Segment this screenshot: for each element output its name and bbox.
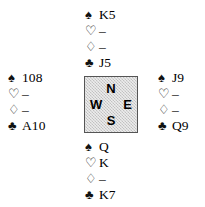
west-spade-holding: 108 xyxy=(22,70,43,86)
north-club-holding: J5 xyxy=(99,55,111,71)
diamond-icon: ♢ xyxy=(85,39,99,55)
hand-row-clubs: ♣ K7 xyxy=(85,187,116,203)
south-club-holding: K7 xyxy=(99,187,116,203)
compass-east-label: E xyxy=(123,98,132,111)
east-diamond-holding: – xyxy=(172,102,179,118)
hand-north: ♠ K5 ♡ – ♢ – ♣ J5 xyxy=(85,7,116,71)
hand-row-hearts: ♡ – xyxy=(85,23,116,39)
hand-row-hearts: ♡ – xyxy=(158,86,189,102)
hand-row-diamonds: ♢ – xyxy=(85,39,116,55)
south-diamond-holding: – xyxy=(99,171,106,187)
compass-west-label: W xyxy=(90,98,102,111)
hand-row-spades: ♠ K5 xyxy=(85,7,116,23)
diamond-icon: ♢ xyxy=(8,102,22,118)
hand-row-clubs: ♣ J5 xyxy=(85,55,116,71)
south-heart-holding: K xyxy=(99,155,109,171)
north-heart-holding: – xyxy=(99,23,106,39)
hand-west: ♠ 108 ♡ – ♢ – ♣ A10 xyxy=(8,70,46,134)
compass-box: N W E S xyxy=(84,76,138,133)
club-icon: ♣ xyxy=(85,55,99,71)
west-diamond-holding: – xyxy=(22,102,29,118)
heart-icon: ♡ xyxy=(8,86,22,102)
east-club-holding: Q9 xyxy=(172,118,189,134)
hand-row-hearts: ♡ – xyxy=(8,86,46,102)
hand-row-clubs: ♣ Q9 xyxy=(158,118,189,134)
west-heart-holding: – xyxy=(22,86,29,102)
hand-row-spades: ♠ 108 xyxy=(8,70,46,86)
heart-icon: ♡ xyxy=(158,86,172,102)
bridge-hand-diagram: ♠ K5 ♡ – ♢ – ♣ J5 ♠ 108 ♡ – ♢ – ♣ xyxy=(0,0,205,207)
hand-row-diamonds: ♢ – xyxy=(85,171,116,187)
club-icon: ♣ xyxy=(85,187,99,203)
hand-row-hearts: ♡ K xyxy=(85,155,116,171)
spade-icon: ♠ xyxy=(85,139,99,155)
hand-row-diamonds: ♢ – xyxy=(8,102,46,118)
east-heart-holding: – xyxy=(172,86,179,102)
south-spade-holding: Q xyxy=(99,139,109,155)
diamond-icon: ♢ xyxy=(85,171,99,187)
north-diamond-holding: – xyxy=(99,39,106,55)
diamond-icon: ♢ xyxy=(158,102,172,118)
spade-icon: ♠ xyxy=(158,70,172,86)
hand-row-spades: ♠ J9 xyxy=(158,70,189,86)
hand-row-spades: ♠ Q xyxy=(85,139,116,155)
club-icon: ♣ xyxy=(8,118,22,134)
spade-icon: ♠ xyxy=(8,70,22,86)
hand-row-diamonds: ♢ – xyxy=(158,102,189,118)
spade-icon: ♠ xyxy=(85,7,99,23)
hand-east: ♠ J9 ♡ – ♢ – ♣ Q9 xyxy=(158,70,189,134)
hand-row-clubs: ♣ A10 xyxy=(8,118,46,134)
club-icon: ♣ xyxy=(158,118,172,134)
north-spade-holding: K5 xyxy=(99,7,116,23)
east-spade-holding: J9 xyxy=(172,70,184,86)
compass-south-label: S xyxy=(85,114,137,127)
heart-icon: ♡ xyxy=(85,23,99,39)
compass-north-label: N xyxy=(85,82,137,95)
heart-icon: ♡ xyxy=(85,155,99,171)
hand-south: ♠ Q ♡ K ♢ – ♣ K7 xyxy=(85,139,116,203)
west-club-holding: A10 xyxy=(22,118,46,134)
